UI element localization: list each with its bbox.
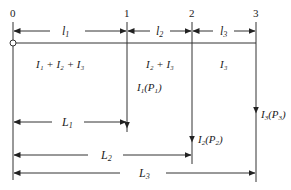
svg-text:l2: l2 — [156, 24, 163, 39]
distance-L3-dimension: L3 — [14, 166, 255, 181]
segment-current-2: I₂ + I₃ — [145, 58, 174, 70]
svg-text:l3: l3 — [220, 24, 227, 39]
svg-text:I1(P1): I1(P1) — [136, 81, 162, 95]
load-1-arrow: I1(P1) — [127, 43, 162, 132]
segment-current-1: I₁ + I₂ + I₃ — [35, 58, 84, 70]
distance-L2-dimension: L2 — [14, 148, 191, 163]
segment-l2-dimension: l2 — [128, 24, 191, 39]
segment-l3-dimension: l3 — [193, 24, 255, 39]
svg-text:I3(P3): I3(P3) — [260, 108, 286, 122]
load-2-arrow: I2(P2) — [192, 43, 223, 164]
segment-current-3: I₃ — [219, 58, 228, 70]
node-label-1: 1 — [124, 7, 130, 19]
svg-text:I2(P2): I2(P2) — [197, 133, 223, 147]
source-node-circle — [10, 40, 16, 46]
load-3-arrow: I3(P3) — [256, 43, 286, 182]
node-label-0: 0 — [10, 7, 16, 19]
segment-l1-dimension: l1 — [14, 24, 126, 39]
distribution-line-diagram: 0 1 2 3 l1 l2 l3 I₁ + I₂ + I₃ I₂ + I₃ I₃… — [0, 0, 291, 190]
distance-L1-dimension: L1 — [14, 115, 126, 130]
svg-text:L2: L2 — [100, 148, 112, 163]
svg-text:L1: L1 — [61, 115, 73, 130]
node-label-3: 3 — [253, 7, 259, 19]
svg-text:l1: l1 — [62, 24, 69, 39]
svg-text:L3: L3 — [138, 166, 150, 181]
node-label-2: 2 — [189, 7, 195, 19]
